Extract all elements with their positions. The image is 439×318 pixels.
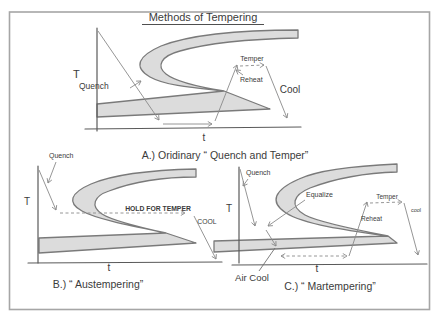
air-cool-leader <box>259 248 275 271</box>
time-axis <box>232 264 427 265</box>
diagram-a: T Quench Temper Reheat Cool t A.) Oridin… <box>73 28 309 161</box>
quench-line <box>39 170 56 210</box>
quench-line <box>240 169 255 226</box>
ttt-band <box>214 164 397 252</box>
temp-axis-label: T <box>226 203 232 214</box>
caption-b: B.) “ Austempering” <box>53 278 144 290</box>
cool-label: cool <box>411 207 421 213</box>
time-axis-label: t <box>316 263 319 274</box>
quench-label: Quench <box>246 169 271 177</box>
slide: Methods of Tempering T Quench Temper Reh… <box>0 0 439 318</box>
diagram-b: Quench T HOLD FOR TEMPER COOL t B.) “ Au… <box>24 152 222 290</box>
page-title: Methods of Tempering <box>149 11 258 23</box>
temp-axis-label: T <box>73 68 80 80</box>
cool-label: Cool <box>280 84 301 95</box>
temp-axis-label: T <box>24 196 30 207</box>
caption-a: A.) Oridinary “ Quench and Temper” <box>142 149 309 161</box>
temper-label: Temper <box>376 193 399 201</box>
quench-label: Quench <box>79 81 109 91</box>
equalize-label: Equalize <box>306 191 333 199</box>
cool-label: COOL <box>197 218 216 225</box>
hold-for-temper-label: HOLD FOR TEMPER <box>125 205 191 212</box>
quench-pointer-arrow <box>48 162 56 183</box>
reheat-pointer-arrow <box>236 70 243 75</box>
temper-label: Temper <box>240 55 264 63</box>
quench-label: Quench <box>49 152 74 160</box>
temper-arrow <box>240 65 264 66</box>
time-axis-label: t <box>203 132 206 143</box>
air-cool-label: Air Cool <box>235 272 269 283</box>
caption-c: C.) “ Martempering” <box>284 280 376 292</box>
reheat-label: Reheat <box>361 215 382 222</box>
time-axis <box>85 127 301 129</box>
reheat-label: Reheat <box>240 76 263 83</box>
time-axis <box>28 262 222 263</box>
diagram-c: Quench T Equalize Reheat Temper cool Air… <box>214 164 427 292</box>
quench-pointer-arrow <box>130 81 141 88</box>
time-axis-label: t <box>108 262 111 273</box>
methods-of-tempering-figure: Methods of Tempering T Quench Temper Reh… <box>0 0 439 318</box>
temper-arrow <box>370 202 402 203</box>
